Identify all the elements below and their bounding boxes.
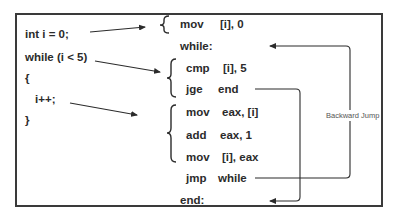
brace-condition: [167, 59, 176, 97]
brace-body: [167, 105, 176, 162]
forward-jump-connector: [255, 89, 300, 201]
brace-init: [160, 16, 169, 33]
arrow-increment-to-body: [70, 103, 137, 115]
connector-overlay: [0, 0, 399, 217]
arrow-init-to-mov: [90, 27, 145, 32]
arrow-while-to-cmp: [95, 61, 160, 72]
backward-jump-label: Backward Jump: [326, 110, 379, 121]
